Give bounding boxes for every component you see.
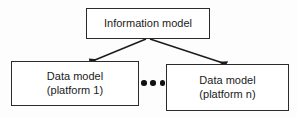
node-data-model-platform-n-label: Data model (platform n) — [196, 74, 258, 101]
node-information-model: Information model — [86, 8, 210, 39]
node-data-model-platform-1-label: Data model (platform 1) — [44, 70, 106, 97]
ellipsis-separator — [141, 77, 165, 89]
node-data-model-platform-1: Data model (platform 1) — [11, 61, 139, 106]
edge-to-platform-1 — [90, 39, 146, 62]
ellipsis-dot-icon — [150, 80, 156, 86]
edge-to-platform-n — [150, 39, 226, 64]
node-data-model-platform-n: Data model (platform n) — [166, 64, 289, 111]
node-information-model-label: Information model — [101, 17, 195, 30]
diagram-canvas: Information model Data model (platform 1… — [0, 0, 297, 117]
ellipsis-dot-icon — [160, 80, 166, 86]
ellipsis-dot-icon — [141, 80, 147, 86]
